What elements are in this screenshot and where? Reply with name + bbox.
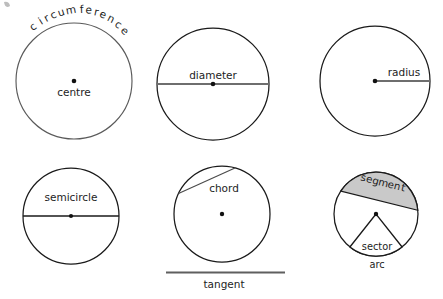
label-radius: radius	[388, 66, 420, 78]
panel-radius: radius	[320, 26, 430, 136]
svg-text:f: f	[79, 3, 84, 15]
panel-diameter: diameter	[157, 28, 269, 140]
corner-artifact	[4, 2, 10, 7]
diagram-canvas: centre c i r c u m f e r e n c e	[0, 0, 443, 299]
label-diameter: diameter	[189, 69, 237, 81]
label-chord: chord	[209, 182, 239, 194]
centre-dot-2	[211, 82, 216, 87]
svg-text:c: c	[27, 20, 39, 33]
centre-dot-3	[373, 79, 378, 84]
svg-text:m: m	[65, 3, 77, 17]
label-centre: centre	[57, 86, 91, 98]
label-semicircle: semicircle	[44, 191, 97, 203]
centre-dot-5	[220, 212, 224, 216]
panel-semicircle: semicircle	[23, 168, 119, 264]
centre-dot-6	[374, 212, 378, 216]
label-tangent: tangent	[203, 278, 244, 290]
svg-text:e: e	[85, 3, 92, 15]
label-arc: arc	[369, 259, 384, 270]
panel-chord-tangent: chord tangent	[166, 166, 285, 290]
centre-dot-4	[69, 214, 73, 218]
panel-centre-circumference: centre c i r c u m f e r e n c e	[16, 3, 132, 139]
circle-parts-diagram: centre c i r c u m f e r e n c e	[0, 0, 443, 299]
centre-dot-1	[72, 79, 77, 84]
label-sector: sector	[362, 241, 393, 252]
panel-segment-sector-arc: s e g m e n t sector arc	[334, 172, 418, 270]
